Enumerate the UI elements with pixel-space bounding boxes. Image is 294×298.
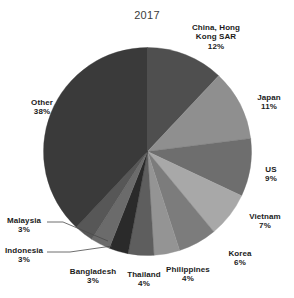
slice-label-bangladesh-value: 3% xyxy=(62,276,124,285)
slice-label-korea-name: Korea xyxy=(219,249,261,258)
slice-label-indonesia-name: Indonesia xyxy=(2,246,46,255)
slice-label-vietnam-name: Vietnam xyxy=(238,212,292,221)
slice-label-china-hong-kong-sar: China, Hong Kong SAR 12% xyxy=(178,23,254,51)
slice-label-korea: Korea 6% xyxy=(219,249,261,268)
slice-label-china-value: 12% xyxy=(178,42,254,51)
slice-label-vietnam: Vietnam 7% xyxy=(238,212,292,231)
slice-label-vietnam-value: 7% xyxy=(238,221,292,230)
slice-label-china-line1: China, Hong xyxy=(178,23,254,32)
slice-label-philippines-value: 4% xyxy=(160,274,216,283)
slice-label-japan: Japan 11% xyxy=(248,93,290,112)
slice-label-other: Other 38% xyxy=(20,98,64,117)
slice-label-philippines: Philippines 4% xyxy=(160,265,216,284)
slice-label-thailand-name: Thailand xyxy=(122,270,166,279)
slice-label-philippines-name: Philippines xyxy=(160,265,216,274)
slice-label-korea-value: 6% xyxy=(219,258,261,267)
slice-label-thailand: Thailand 4% xyxy=(122,270,166,289)
slice-label-indonesia-value: 3% xyxy=(2,255,46,264)
slice-label-us-name: US xyxy=(256,165,286,174)
slice-label-other-name: Other xyxy=(20,98,64,107)
slice-label-bangladesh: Bangladesh 3% xyxy=(62,267,124,286)
slice-label-japan-value: 11% xyxy=(248,102,290,111)
slice-label-thailand-value: 4% xyxy=(122,279,166,288)
slice-label-malaysia-value: 3% xyxy=(3,225,45,234)
slice-label-bangladesh-name: Bangladesh xyxy=(62,267,124,276)
slice-label-malaysia: Malaysia 3% xyxy=(3,216,45,235)
slice-label-other-value: 38% xyxy=(20,107,64,116)
pie-chart-figure: 2017 China, Hong Kong SAR 12% Japan 11% … xyxy=(0,0,294,298)
leader-line-indonesia xyxy=(47,246,112,252)
slice-label-us: US 9% xyxy=(256,165,286,184)
slice-label-malaysia-name: Malaysia xyxy=(3,216,45,225)
slice-label-japan-name: Japan xyxy=(248,93,290,102)
slice-label-china-line2: Kong SAR xyxy=(178,32,254,41)
pie-slices-group xyxy=(44,48,252,256)
slice-label-us-value: 9% xyxy=(256,174,286,183)
slice-label-indonesia: Indonesia 3% xyxy=(2,246,46,265)
